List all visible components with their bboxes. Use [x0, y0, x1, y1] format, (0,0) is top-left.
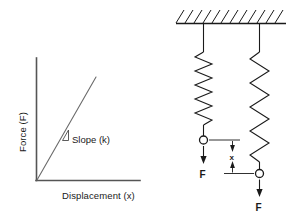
right-spring-coil — [250, 52, 269, 162]
slope-triangle-marker — [63, 130, 69, 141]
chart-y-axis-label: Force (F) — [17, 112, 28, 152]
right-spring-mass-ring — [256, 170, 264, 178]
physics-figure-canvas: Slope (k) Force (F) Displacement (x) — [0, 0, 292, 220]
left-force-arrow-head — [200, 156, 206, 164]
left-spring-coil — [195, 52, 212, 125]
left-force-label: F — [200, 169, 206, 180]
ceiling-hatching — [176, 10, 283, 23]
chart-data-line — [37, 77, 96, 180]
displacement-dimension-label: x — [230, 153, 235, 162]
left-spring-mass-ring — [200, 136, 208, 144]
displacement-dimension: x — [209, 140, 254, 174]
chart-x-axis-label: Displacement (x) — [62, 190, 135, 201]
slope-annotation-label: Slope (k) — [72, 134, 110, 145]
force-displacement-chart: Slope (k) Force (F) Displacement (x) — [17, 58, 140, 201]
figure-root: Slope (k) Force (F) Displacement (x) — [0, 0, 292, 220]
right-spring-assembly: F — [250, 24, 269, 214]
dimension-upper-arrowhead — [230, 145, 235, 152]
spring-diagram: F F — [176, 10, 286, 213]
dimension-lower-arrowhead — [230, 161, 235, 168]
left-spring-assembly: F — [195, 24, 212, 181]
right-force-label: F — [256, 202, 262, 213]
right-force-arrow-head — [256, 189, 262, 197]
